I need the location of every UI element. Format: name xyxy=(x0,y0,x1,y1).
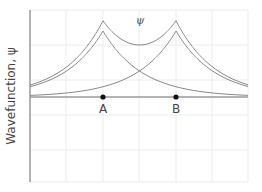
y-axis-label-text: Wavefunction, ψ xyxy=(4,47,18,145)
grid-lines xyxy=(30,10,248,182)
plot-area: A B ψ xyxy=(0,0,262,192)
point-a-label: A xyxy=(99,102,108,116)
wavefunction-diagram: A B ψ Wavefunction, ψ xyxy=(0,0,262,192)
point-b-label: B xyxy=(172,102,180,116)
psi-label: ψ xyxy=(136,14,145,27)
point-b-marker xyxy=(173,94,178,99)
point-a-marker xyxy=(100,94,105,99)
y-axis-label: Wavefunction, ψ xyxy=(4,88,18,104)
